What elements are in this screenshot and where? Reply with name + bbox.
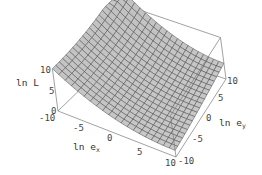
x-tick-minus10: -10 — [39, 113, 55, 123]
x-axis-label-subscript: x — [96, 146, 100, 154]
x-tick-10: 10 — [165, 158, 176, 168]
y-tick-5: 5 — [218, 93, 223, 103]
y-tick-10: 10 — [227, 76, 238, 86]
y-axis-label-text: ln e — [219, 117, 242, 128]
z-axis-label: ln L — [16, 77, 39, 88]
x-axis-label: ln ex — [73, 141, 100, 154]
y-axis-label: ln ey — [219, 117, 246, 130]
x-tick-0: 0 — [107, 133, 112, 143]
y-tick-0: 0 — [206, 113, 211, 123]
y-tick-minus10: -10 — [178, 156, 194, 166]
surface-plot-3d: 10 5 0 ln L -10 -5 0 5 10 ln ex -10 -5 0… — [0, 0, 262, 175]
z-tick-10: 10 — [40, 65, 51, 75]
x-tick-minus5: -5 — [73, 123, 84, 133]
box-edge — [221, 38, 227, 80]
z-tick-5: 5 — [49, 86, 54, 96]
y-axis-label-subscript: y — [242, 122, 246, 130]
x-axis-label-text: ln e — [73, 141, 96, 152]
x-tick-5: 5 — [137, 147, 142, 157]
y-tick-minus5: -5 — [192, 134, 203, 144]
